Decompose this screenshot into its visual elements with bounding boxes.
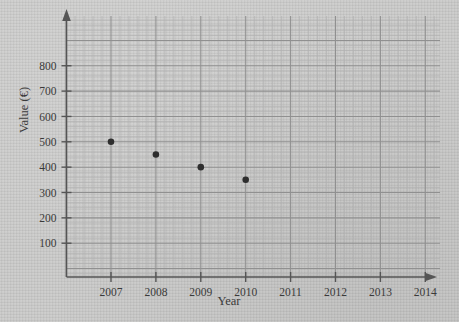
- data-point-2008: [153, 151, 160, 158]
- y-axis-arrowhead: [62, 9, 71, 21]
- x-tick-label-2007: 2007: [100, 286, 123, 298]
- y-tick-label-800: 800: [39, 60, 57, 72]
- y-axis-tick-labels: 100200300400500600700800: [39, 60, 57, 249]
- grid-major-horizontal: [67, 40, 441, 268]
- y-tick-label-100: 100: [39, 237, 57, 249]
- x-axis-tick-labels: 20072008200920102011201220132014: [100, 286, 438, 298]
- x-axis-title: Year: [217, 294, 241, 308]
- x-tick-label-2008: 2008: [144, 286, 167, 298]
- x-tick-label-2012: 2012: [324, 286, 347, 298]
- scatter-plot: 100200300400500600700800 200720082009201…: [0, 0, 459, 322]
- x-tick-label-2009: 2009: [189, 286, 212, 298]
- y-tick-label-500: 500: [39, 136, 57, 148]
- y-tick-label-200: 200: [39, 212, 57, 224]
- y-tick-label-400: 400: [39, 161, 57, 173]
- x-tick-label-2013: 2013: [369, 286, 392, 298]
- data-point-2009: [198, 164, 205, 171]
- y-tick-label-600: 600: [39, 111, 57, 123]
- data-point-2007: [108, 139, 115, 146]
- x-axis-arrowhead: [425, 273, 437, 281]
- x-tick-label-2011: 2011: [279, 286, 302, 298]
- y-tick-label-300: 300: [39, 187, 57, 199]
- grid-minor-horizontal: [67, 20, 441, 274]
- data-point-2010: [242, 177, 249, 184]
- y-axis-title: Value (€): [17, 87, 31, 133]
- y-tick-label-700: 700: [39, 85, 57, 97]
- x-tick-label-2014: 2014: [414, 286, 437, 298]
